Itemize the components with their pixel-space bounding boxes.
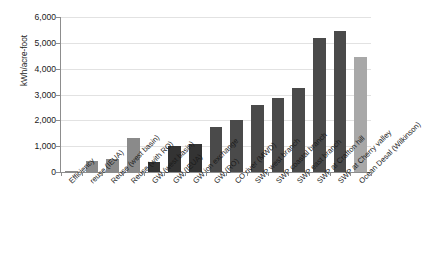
y-tick-label: 6,000 — [4, 12, 56, 22]
x-tick-mark — [164, 172, 165, 176]
y-axis-tick-labels: 6,0005,0004,0003,0002,0001,0000 — [0, 0, 56, 267]
x-tick-mark — [102, 172, 103, 176]
x-tick-mark — [288, 172, 289, 176]
x-tick-mark — [185, 172, 186, 176]
x-tick-mark — [82, 172, 83, 176]
bar — [210, 127, 223, 172]
bar — [148, 162, 161, 172]
bar — [313, 38, 326, 172]
x-tick-mark — [123, 172, 124, 176]
bar — [106, 159, 119, 172]
x-tick-mark — [247, 172, 248, 176]
x-axis-line — [61, 172, 372, 173]
x-tick-mark — [309, 172, 310, 176]
bar — [65, 171, 78, 172]
bar — [189, 144, 202, 172]
bar — [168, 146, 181, 172]
x-tick-mark — [226, 172, 227, 176]
y-tick-label: 4,000 — [4, 64, 56, 74]
bar — [230, 120, 243, 172]
bar-series — [61, 17, 371, 172]
y-tick-label: 3,000 — [4, 90, 56, 100]
x-tick-mark — [371, 172, 372, 176]
bar — [272, 98, 285, 172]
y-tick-label: 1,000 — [4, 141, 56, 151]
plot-area — [61, 17, 371, 172]
y-tick-label: 5,000 — [4, 38, 56, 48]
bar — [251, 105, 264, 172]
x-tick-mark — [206, 172, 207, 176]
y-tick-label: 0 — [4, 167, 56, 177]
x-tick-mark — [350, 172, 351, 176]
x-tick-mark — [268, 172, 269, 176]
bar — [334, 31, 347, 172]
x-tick-mark — [144, 172, 145, 176]
y-tick-label: 2,000 — [4, 115, 56, 125]
bar — [127, 138, 140, 172]
x-tick-mark — [61, 172, 62, 176]
bar — [354, 57, 367, 172]
bar — [292, 88, 305, 172]
x-tick-mark — [330, 172, 331, 176]
bar — [86, 161, 99, 172]
